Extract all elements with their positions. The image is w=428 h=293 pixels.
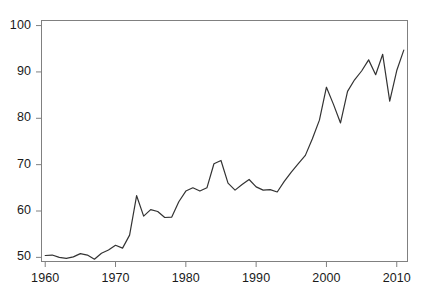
- x-tick-label: 1980: [156, 271, 216, 285]
- y-axis-ticks: [36, 26, 41, 258]
- y-tick-label: 50: [0, 249, 31, 263]
- x-tick-label: 2010: [367, 271, 427, 285]
- y-tick-label: 70: [0, 157, 31, 171]
- x-tick-label: 2000: [296, 271, 356, 285]
- data-line-value: [45, 50, 404, 259]
- y-tick-label: 100: [0, 18, 31, 32]
- y-tick-label: 80: [0, 110, 31, 124]
- x-tick-label: 1960: [15, 271, 75, 285]
- chart-container: 5060708090100 196019701980199020002010: [0, 0, 428, 293]
- x-tick-label: 1970: [86, 271, 146, 285]
- y-tick-label: 90: [0, 64, 31, 78]
- plot-frame: [42, 21, 408, 262]
- y-tick-label: 60: [0, 203, 31, 217]
- data-series-group: [45, 50, 404, 259]
- x-tick-label: 1990: [226, 271, 286, 285]
- line-chart-plot: [0, 0, 428, 293]
- x-axis-ticks: [45, 262, 397, 267]
- plot-border: [42, 21, 408, 262]
